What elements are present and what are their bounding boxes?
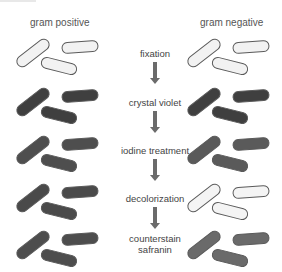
gram-stain-diagram: gram positive gram negative fixationcrys… xyxy=(0,0,282,272)
gram-negative-bacterium-rod xyxy=(233,89,270,102)
gram-positive-bacterium-rod xyxy=(40,201,78,220)
gram-positive-bacterium-rod xyxy=(40,105,78,124)
gram-negative-bacterium-rod xyxy=(211,153,249,172)
gram-positive-bacterium-rod xyxy=(62,185,99,198)
gram-negative-bacterium-rod xyxy=(211,105,249,124)
gram-positive-bacterium-rod xyxy=(62,137,99,150)
gram-negative-bacterium-rod xyxy=(233,40,270,53)
gram-positive-bacterium-rod xyxy=(62,232,99,245)
gram-negative-bacterium-rod xyxy=(233,185,270,198)
gram-positive-bacterium-rod xyxy=(40,56,78,75)
gram-negative-bacterium-rod xyxy=(211,56,249,75)
gram-negative-bacterium-rod xyxy=(233,137,270,150)
gram-negative-bacterium-rod xyxy=(211,201,249,220)
gram-positive-bacterium-rod xyxy=(62,40,99,53)
gram-positive-bacterium-rod xyxy=(40,153,78,172)
gram-negative-bacterium-rod xyxy=(233,232,270,245)
bacteria-layer xyxy=(0,0,282,272)
gram-negative-bacterium-rod xyxy=(211,248,249,267)
gram-positive-bacterium-rod xyxy=(62,89,99,102)
gram-positive-bacterium-rod xyxy=(40,248,78,267)
